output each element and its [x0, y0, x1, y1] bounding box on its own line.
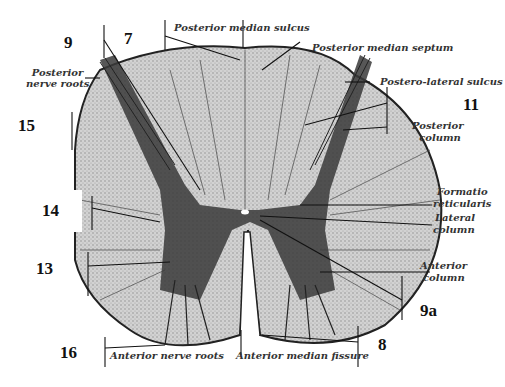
- label-formatio-reticularis-line2: reticularis: [433, 198, 491, 209]
- number-16: 16: [60, 344, 77, 362]
- spinal-cord-diagram: [0, 0, 505, 387]
- label-lateral-column-line1: Lateral: [435, 212, 475, 223]
- number-7: 7: [124, 30, 133, 48]
- number-11: 11: [463, 96, 479, 114]
- label-anterior-column-line1: Anterior: [420, 260, 467, 271]
- label-posterior-column-line2: column: [415, 132, 465, 143]
- label-posterior-nerve-roots-line1: Posterior: [30, 67, 85, 78]
- label-anterior-median-fissure: Anterior median fissure: [236, 350, 369, 361]
- label-anterior-nerve-roots: Anterior nerve roots: [110, 350, 224, 361]
- label-lateral-column-line2: column: [433, 224, 475, 235]
- number-13: 13: [36, 260, 53, 278]
- label-posterior-median-sulcus: Posterior median sulcus: [174, 22, 310, 33]
- label-formatio-reticularis-line1: Formatio: [437, 186, 488, 197]
- label-posterior-nerve-roots-line2: nerve roots: [26, 78, 88, 89]
- number-15: 15: [18, 117, 35, 135]
- number-14: 14: [42, 202, 59, 220]
- label-anterior-column-line2: column: [423, 272, 465, 283]
- number-9a: 9a: [420, 302, 437, 320]
- label-posterior-column-line1: Posterior: [412, 120, 462, 131]
- label-postero-lateral-sulcus: Postero-lateral sulcus: [380, 76, 503, 87]
- number-8: 8: [378, 336, 387, 354]
- central-canal: [241, 210, 249, 215]
- label-posterior-median-septum: Posterior median septum: [312, 42, 453, 53]
- number-9: 9: [64, 34, 73, 52]
